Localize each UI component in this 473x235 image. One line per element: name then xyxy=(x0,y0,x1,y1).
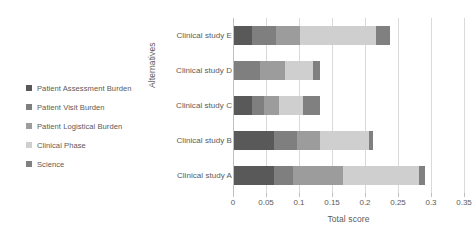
x-axis-tick xyxy=(398,193,399,197)
x-axis-tick xyxy=(431,193,432,197)
y-axis-category-label: Clinical study E xyxy=(142,31,232,40)
x-axis-tick xyxy=(464,193,465,197)
bar-segment[interactable] xyxy=(234,131,274,150)
x-axis-tick xyxy=(266,193,267,197)
gridline xyxy=(464,18,465,193)
bar-segment[interactable] xyxy=(234,61,260,80)
legend-item[interactable]: Patient Assessment Burden xyxy=(26,80,166,96)
bar-segment[interactable] xyxy=(320,131,370,150)
legend-item-label: Science xyxy=(37,160,64,169)
bar-group[interactable] xyxy=(234,96,320,115)
x-axis-tick xyxy=(365,193,366,197)
bar-segment[interactable] xyxy=(264,96,279,115)
bar-segment[interactable] xyxy=(343,166,419,185)
bar-segment[interactable] xyxy=(369,131,373,150)
legend-swatch-icon xyxy=(26,104,32,110)
y-axis-category-label: Clinical study D xyxy=(142,66,232,75)
legend-item-label: Patient Assessment Burden xyxy=(37,84,132,93)
bar-segment[interactable] xyxy=(252,26,275,45)
bar-segment[interactable] xyxy=(274,131,297,150)
bar-segment[interactable] xyxy=(297,131,320,150)
legend-swatch-icon xyxy=(26,142,32,148)
bar-segment[interactable] xyxy=(252,96,264,115)
x-axis-tick xyxy=(233,193,234,197)
legend-item-label: Patient Visit Burden xyxy=(37,103,105,112)
y-axis-category-label: Clinical study B xyxy=(142,136,232,145)
plot-area xyxy=(233,18,464,193)
legend-swatch-icon xyxy=(26,161,32,167)
bar-segment[interactable] xyxy=(234,26,252,45)
gridline xyxy=(431,18,432,193)
legend-item-label: Patient Logistical Burden xyxy=(37,122,122,131)
bar-segment[interactable] xyxy=(313,61,320,80)
bar-segment[interactable] xyxy=(279,96,303,115)
bar-segment[interactable] xyxy=(276,26,300,45)
bar-segment[interactable] xyxy=(234,96,252,115)
x-axis-title: Total score xyxy=(233,214,464,224)
bar-group[interactable] xyxy=(234,166,425,185)
y-axis-category-label: Clinical study A xyxy=(142,171,232,180)
legend-swatch-icon xyxy=(26,123,32,129)
bar-segment[interactable] xyxy=(303,96,320,115)
y-axis-category-label: Clinical study C xyxy=(142,101,232,110)
legend-item-label: Clinical Phase xyxy=(37,141,86,150)
x-axis-tick xyxy=(299,193,300,197)
plot-canvas xyxy=(233,18,464,193)
bar-segment[interactable] xyxy=(274,166,294,185)
bar-segment[interactable] xyxy=(285,61,313,80)
bar-group[interactable] xyxy=(234,131,373,150)
legend-item[interactable]: Patient Logistical Burden xyxy=(26,118,166,134)
x-axis-tick-label: 0.35 xyxy=(444,198,473,207)
bar-segment[interactable] xyxy=(293,166,343,185)
bar-group[interactable] xyxy=(234,61,320,80)
bar-group[interactable] xyxy=(234,26,390,45)
x-axis-tick xyxy=(332,193,333,197)
bar-segment[interactable] xyxy=(234,166,274,185)
stacked-bar-chart-figure: Patient Assessment BurdenPatient Visit B… xyxy=(0,0,473,235)
legend-swatch-icon xyxy=(26,85,32,91)
bar-segment[interactable] xyxy=(376,26,391,45)
chart-legend: Patient Assessment BurdenPatient Visit B… xyxy=(26,80,166,175)
bar-segment[interactable] xyxy=(260,61,285,80)
bar-segment[interactable] xyxy=(419,166,425,185)
bar-segment[interactable] xyxy=(300,26,376,45)
